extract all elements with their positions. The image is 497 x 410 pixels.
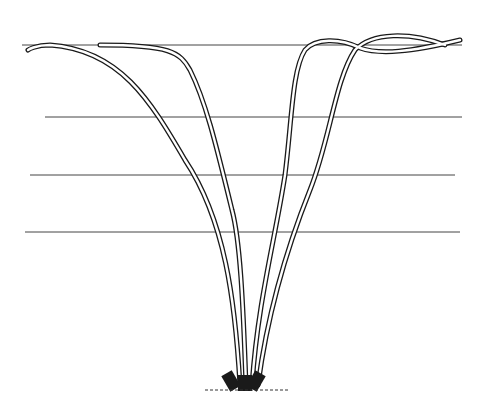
trellis-illustration xyxy=(0,0,497,410)
cane-inner-left xyxy=(100,45,246,385)
cane-outer-right xyxy=(258,36,445,385)
cane-outer-left xyxy=(28,45,240,385)
trellis-wires xyxy=(22,45,462,232)
trellis-drawing xyxy=(0,0,497,410)
cane-inner-right xyxy=(252,40,460,385)
cane-highlights xyxy=(28,36,460,385)
